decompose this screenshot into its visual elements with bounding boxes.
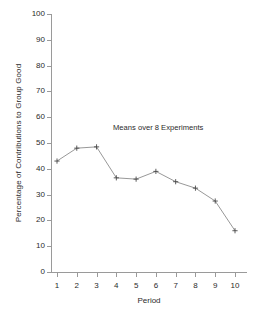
y-tick (47, 117, 51, 118)
data-point (213, 198, 218, 203)
x-tick-label: 10 (227, 281, 243, 290)
x-tick-label: 2 (69, 281, 85, 290)
y-tick (47, 91, 51, 92)
data-point (193, 186, 198, 191)
x-tick (116, 273, 117, 277)
y-tick (47, 220, 51, 221)
x-axis-line (51, 272, 247, 273)
x-tick (195, 273, 196, 277)
y-tick (47, 66, 51, 67)
data-point (114, 175, 119, 180)
x-tick (97, 273, 98, 277)
x-tick (176, 273, 177, 277)
y-tick (47, 195, 51, 196)
x-tick (57, 273, 58, 277)
x-tick-label: 1 (49, 281, 65, 290)
data-point (153, 169, 158, 174)
series-markers (54, 144, 237, 233)
data-point (173, 179, 178, 184)
x-tick (235, 273, 236, 277)
x-tick (77, 273, 78, 277)
series-line (57, 147, 235, 231)
x-tick (156, 273, 157, 277)
y-tick (47, 272, 51, 273)
chart-annotation: Means over 8 Experiments (113, 123, 203, 132)
x-tick-label: 7 (168, 281, 184, 290)
x-axis-title: Period (51, 296, 247, 305)
y-tick (47, 143, 51, 144)
x-tick (215, 273, 216, 277)
x-tick-label: 5 (128, 281, 144, 290)
data-point (54, 158, 59, 163)
x-tick (136, 273, 137, 277)
data-point (74, 146, 79, 151)
y-tick (47, 40, 51, 41)
x-tick-label: 3 (89, 281, 105, 290)
y-tick (47, 246, 51, 247)
chart-figure: 0102030405060708090100 12345678910 Perce… (0, 0, 268, 322)
data-point (232, 228, 237, 233)
data-point (134, 177, 139, 182)
y-tick (47, 169, 51, 170)
x-tick-label: 4 (108, 281, 124, 290)
y-axis-title: Percentage of Contributions to Group Goo… (14, 14, 26, 272)
x-tick-label: 9 (207, 281, 223, 290)
x-tick-label: 8 (187, 281, 203, 290)
data-point (94, 144, 99, 149)
y-axis-line (51, 14, 52, 273)
y-tick (47, 14, 51, 15)
x-tick-label: 6 (148, 281, 164, 290)
